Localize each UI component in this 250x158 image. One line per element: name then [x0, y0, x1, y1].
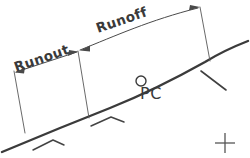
runoff-arrow-left: [80, 46, 90, 52]
extension-line-middle: [78, 51, 89, 118]
runoff-label: Runoff: [94, 3, 149, 35]
extension-line-left: [14, 71, 25, 133]
diagram-canvas: Runout Runoff PC: [0, 0, 250, 158]
hatch-mark-right: [91, 117, 124, 126]
extension-line-right: [200, 7, 210, 61]
runout-label: Runout: [12, 41, 72, 75]
tick-mark-right: [201, 71, 226, 90]
hatch-mark-left: [33, 140, 64, 150]
pc-label: PC: [140, 84, 162, 103]
diagram-svg: Runout Runoff PC: [0, 0, 250, 158]
